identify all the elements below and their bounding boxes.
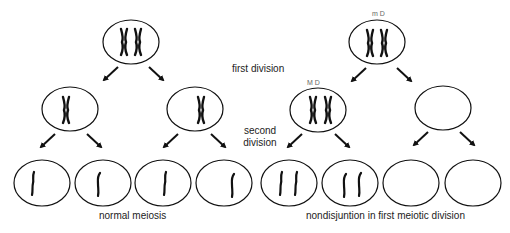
arrow-icon [164, 134, 178, 147]
annotation-middle-left: M D [307, 77, 320, 89]
annotation-top-right: m D [372, 8, 385, 20]
arrow-icon [104, 67, 118, 80]
arrow-icon [41, 134, 55, 147]
second-division-label: second division [240, 125, 280, 149]
arrow-icon [288, 134, 302, 147]
nondisjunction-panel [261, 20, 501, 206]
second-division-line2: division [240, 137, 280, 149]
parent-cell [349, 20, 405, 64]
meiosis-diagram [0, 0, 510, 233]
arrow-icon [211, 134, 225, 147]
arrow-icon [87, 134, 101, 147]
gamete-cell [75, 160, 131, 206]
arrow-icon [397, 68, 411, 81]
second-division-line1: second [240, 125, 280, 137]
nondisjunction-label: nondisjuntion in first meiotic division [306, 210, 465, 222]
arrow-icon [335, 134, 349, 147]
daughter-cell-with-extra [290, 88, 346, 132]
normal-meiosis-label: normal meiosis [99, 210, 166, 222]
daughter-cell [167, 87, 223, 131]
parent-cell [103, 20, 159, 64]
first-division-label: first division [232, 63, 284, 75]
daughter-cell-empty [415, 86, 471, 130]
gamete-cell-empty [383, 160, 439, 206]
gamete-cell [196, 160, 252, 206]
daughter-cell [42, 87, 98, 131]
gamete-cell [261, 160, 317, 206]
normal-meiosis-panel [14, 20, 252, 206]
arrow-icon [414, 132, 428, 145]
gamete-cell [14, 160, 70, 206]
gamete-cell-empty [445, 160, 501, 206]
gamete-cell [135, 160, 191, 206]
gamete-cell [322, 160, 378, 206]
arrow-icon [460, 132, 474, 145]
arrow-icon [352, 68, 366, 81]
arrow-icon [149, 67, 163, 80]
